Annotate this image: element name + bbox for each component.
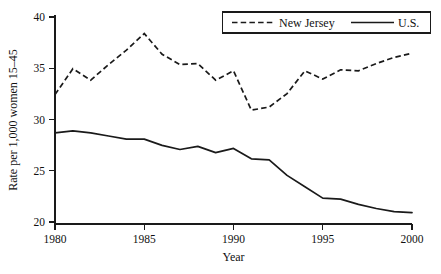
- y-axis-title: Rate per 1,000 women 15–45: [6, 49, 20, 191]
- legend-label-new-jersey: New Jersey: [279, 16, 335, 30]
- chart-legend: New Jersey U.S.: [223, 12, 431, 33]
- y-axis-ticks: 40 35 30 25 20: [34, 11, 56, 228]
- series-line-us: [55, 131, 412, 213]
- x-tick-label-1980: 1980: [44, 233, 67, 245]
- x-axis-ticks: 1980 1985 1990 1995 2000: [44, 224, 424, 245]
- series-line-new-jersey: [55, 34, 412, 111]
- x-tick-label-1995: 1995: [311, 233, 334, 245]
- y-tick-label-40: 40: [34, 11, 46, 23]
- y-tick-label-35: 35: [34, 62, 46, 74]
- caption-fragment: [14, 264, 434, 274]
- figure-container: 40 35 30 25 20 1980 1985 1990 1995 2000 …: [0, 0, 441, 274]
- y-tick-label-30: 30: [34, 114, 46, 126]
- y-tick-label-25: 25: [34, 165, 46, 177]
- x-axis-title: Year: [222, 250, 244, 264]
- line-chart: 40 35 30 25 20 1980 1985 1990 1995 2000 …: [0, 0, 441, 274]
- y-tick-label-20: 20: [34, 216, 46, 228]
- x-tick-label-1985: 1985: [133, 233, 156, 245]
- legend-label-us: U.S.: [398, 16, 419, 30]
- x-tick-label-2000: 2000: [401, 233, 424, 245]
- x-tick-label-1990: 1990: [222, 233, 245, 245]
